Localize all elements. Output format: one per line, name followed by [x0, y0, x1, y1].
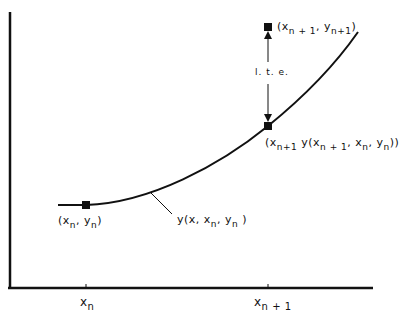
label-exact-next: (xn + 1, yn+1): [277, 20, 356, 33]
point-exact-next-marker: [264, 23, 272, 31]
label-curve: y(x, xn, yn ): [177, 213, 247, 226]
point-approx-next-marker: [264, 122, 272, 130]
label-approx-next: (xn+1 y(xn + 1, xn, yn)): [265, 136, 399, 149]
curve-label-leader: [150, 192, 172, 214]
label-start-point: (xn, yn): [58, 214, 102, 227]
label-local-truncation-error: l. t. e.: [255, 66, 289, 78]
x-tick-label-xn: xn: [80, 295, 94, 309]
solution-curve: [58, 32, 358, 205]
x-tick-label-xn1: xn + 1: [254, 295, 292, 309]
point-start-marker: [82, 201, 90, 209]
